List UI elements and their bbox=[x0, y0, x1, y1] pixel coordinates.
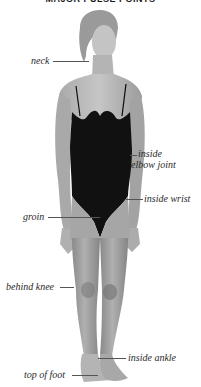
label-top-of-foot: top of foot bbox=[24, 369, 65, 380]
label-inside-elbow-joint-line1: inside bbox=[138, 148, 162, 159]
label-groin: groin bbox=[23, 211, 44, 222]
inside-wrist-leader-line bbox=[126, 199, 143, 200]
label-neck: neck bbox=[31, 55, 49, 66]
label-behind-knee: behind knee bbox=[6, 281, 54, 292]
behind-knee-leader-line bbox=[60, 287, 74, 288]
label-inside-wrist: inside wrist bbox=[144, 193, 190, 204]
inside-ankle-leader-line bbox=[98, 358, 126, 359]
top-of-foot-leader-line bbox=[72, 375, 98, 376]
label-inside-elbow-joint-line2: elbow joint bbox=[131, 159, 176, 170]
label-inside-ankle: inside ankle bbox=[128, 352, 176, 363]
inside-elbow-leader-line bbox=[130, 155, 137, 156]
neck-leader-line bbox=[53, 61, 89, 62]
groin-leader-line bbox=[48, 217, 100, 218]
